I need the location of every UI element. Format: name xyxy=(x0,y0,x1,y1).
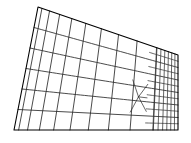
figure-root xyxy=(0,0,191,143)
mesh-svg xyxy=(0,0,191,143)
